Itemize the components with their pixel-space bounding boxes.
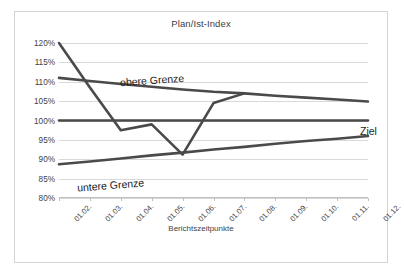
y-axis-tick-label: 100%	[34, 116, 55, 125]
y-axis-tick-label: 85%	[39, 174, 55, 183]
x-axis-tick-label: 01.10.	[319, 202, 340, 223]
y-axis-tick-label: 115%	[35, 58, 55, 67]
x-axis-tick-label: 01.08.	[258, 202, 279, 223]
x-axis-tick-label: 01.04.	[134, 202, 155, 223]
series-lines	[59, 43, 368, 198]
x-axis-tick-label: 01.12.	[381, 202, 402, 223]
x-axis-tickmark	[368, 198, 369, 201]
x-axis-tick-label: 01.11.	[350, 202, 371, 223]
chart-frame: Plan/Ist-Index 120%115%110%105%100%95%90…	[14, 11, 388, 263]
y-axis-tick-label: 110%	[35, 77, 55, 86]
y-axis-tick-label: 90%	[39, 155, 55, 164]
y-axis-tick-label: 120%	[34, 39, 55, 48]
x-axis-tick-label: 01.02.	[72, 202, 93, 223]
y-axis-tick-label: 80%	[39, 194, 55, 203]
y-axis-tick-label: 95%	[39, 135, 55, 144]
y-axis-tick-label: 105%	[34, 97, 55, 106]
series-line	[59, 136, 368, 164]
series-line	[59, 78, 368, 102]
chart-title: Plan/Ist-Index	[15, 18, 387, 29]
x-axis-tick-label: 01.06.	[196, 202, 217, 223]
y-axis-tick-labels: 120%115%110%105%100%95%90%85%80%	[23, 43, 55, 198]
plot-area	[59, 43, 368, 198]
x-axis-tick-label: 01.05.	[165, 202, 186, 223]
series-line	[59, 43, 244, 155]
x-axis-tick-label: 01.03.	[103, 202, 124, 223]
x-axis-tick-labels: 01.02.01.03.01.04.01.05.01.06.01.07.01.0…	[59, 200, 368, 246]
x-axis-title: Berichtszeitpunkte	[15, 224, 387, 233]
annotation-ziel: Ziel	[360, 125, 377, 137]
x-axis-tick-label: 01.07.	[227, 202, 248, 223]
x-axis-tick-label: 01.09.	[288, 202, 309, 223]
